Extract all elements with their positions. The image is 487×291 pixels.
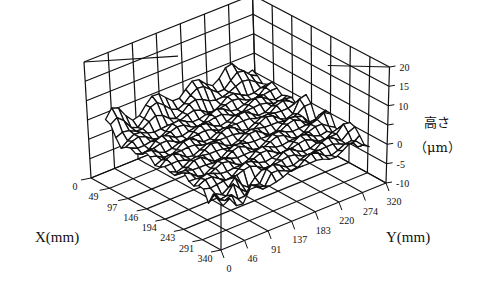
svg-text:0: 0 [397, 139, 402, 150]
y-axis-title: Y(mm) [386, 229, 430, 246]
svg-text:340: 340 [198, 253, 213, 264]
svg-text:10: 10 [398, 101, 408, 112]
svg-text:97: 97 [107, 202, 117, 213]
svg-text:183: 183 [316, 225, 331, 236]
svg-text:46: 46 [248, 253, 258, 264]
svg-text:0: 0 [227, 263, 232, 274]
svg-text:194: 194 [142, 222, 157, 233]
svg-text:15: 15 [399, 81, 409, 92]
svg-text:220: 220 [339, 215, 354, 226]
svg-text:20: 20 [399, 62, 409, 73]
surface-plot: 04997146194243291340 0469113718322027432… [0, 0, 487, 291]
x-axis-title: X(mm) [35, 229, 79, 246]
z-axis-title-line1: 高さ [424, 115, 450, 130]
svg-text:49: 49 [89, 191, 99, 202]
surface-mesh [106, 64, 370, 206]
svg-text:-10: -10 [396, 178, 409, 189]
svg-text:291: 291 [179, 243, 194, 254]
svg-text:320: 320 [387, 196, 402, 207]
svg-text:-5: -5 [397, 159, 405, 170]
svg-text:146: 146 [123, 212, 138, 223]
svg-text:0: 0 [73, 181, 78, 192]
svg-text:243: 243 [160, 232, 175, 243]
svg-text:137: 137 [292, 234, 307, 245]
z-axis-title-line2: （μm） [414, 140, 461, 155]
svg-text:91: 91 [271, 244, 281, 255]
svg-text:274: 274 [363, 206, 378, 217]
